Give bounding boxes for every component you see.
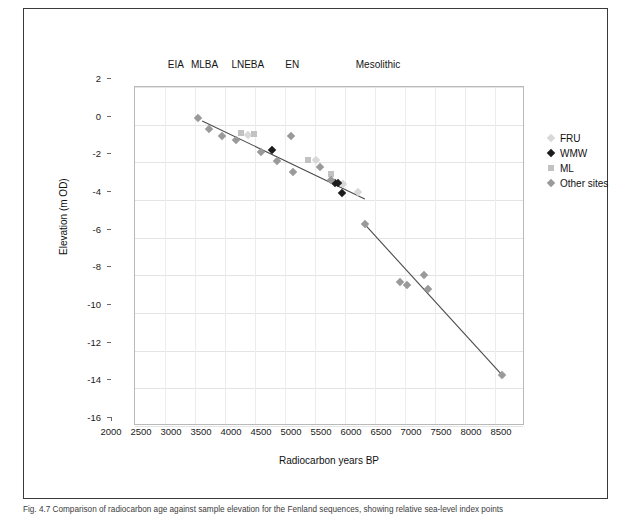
legend-swatch-wrap [542, 150, 560, 156]
y-tick-mark [107, 229, 111, 230]
x-tick-label: 7500 [430, 426, 451, 437]
y-tick-mark [107, 266, 111, 267]
x-tick-label: 8500 [490, 426, 511, 437]
period-label: MLBA [191, 59, 218, 70]
y-tick-mark [107, 191, 111, 192]
x-tick-label: 5500 [310, 426, 331, 437]
legend-item-label: ML [560, 163, 574, 174]
data-point-ml [251, 131, 257, 137]
y-tick-mark [107, 116, 111, 117]
y-tick-label: 0 [96, 110, 101, 121]
square-marker-icon [548, 165, 554, 171]
figure-page: EIAMLBALNEBAENMesolithic 20-2-4-6-8-10-1… [0, 0, 629, 515]
x-tick-label: 6000 [340, 426, 361, 437]
plot-area [134, 86, 524, 425]
legend-item-other-sites[interactable]: Other sites [542, 176, 628, 190]
y-tick-label: -10 [87, 299, 101, 310]
x-tick-label: 7000 [400, 426, 421, 437]
legend-swatch-wrap [542, 135, 560, 141]
y-axis-title: Elevation (m OD) [58, 178, 69, 255]
x-tick-label: 5000 [280, 426, 301, 437]
diamond-marker-icon [547, 179, 555, 187]
legend-item-label: Other sites [560, 178, 608, 189]
y-tick-label: -14 [87, 374, 101, 385]
legend-swatch-wrap [542, 165, 560, 171]
y-tick-label: -12 [87, 336, 101, 347]
y-tick-label: -2 [93, 148, 101, 159]
x-tick-label: 4500 [250, 426, 271, 437]
period-label: EIA [168, 59, 184, 70]
data-point-ml [305, 157, 311, 163]
diamond-marker-icon [547, 134, 555, 142]
x-axis-title: Radiocarbon years BP [134, 455, 524, 466]
trendline [365, 224, 504, 377]
legend: FRUWMWMLOther sites [542, 131, 628, 191]
legend-item-ml[interactable]: ML [542, 161, 628, 175]
y-tick-label: -16 [87, 412, 101, 423]
legend-item-label: FRU [560, 133, 581, 144]
gridline-horizontal [135, 426, 523, 427]
x-tick-label: 6500 [370, 426, 391, 437]
data-point-ml [238, 130, 244, 136]
legend-swatch-wrap [542, 180, 560, 186]
period-label: LNEBA [231, 59, 264, 70]
x-tick-label: 2000 [100, 426, 121, 437]
trendline [202, 121, 365, 199]
y-tick-label: -6 [93, 223, 101, 234]
x-tick-mark [111, 417, 112, 421]
y-tick-mark [107, 78, 111, 79]
y-tick-label: -8 [93, 261, 101, 272]
x-tick-label: 3000 [160, 426, 181, 437]
period-label: EN [285, 59, 299, 70]
y-tick-mark [107, 153, 111, 154]
legend-item-label: WMW [560, 148, 587, 159]
legend-item-wmw[interactable]: WMW [542, 146, 628, 160]
y-tick-mark [107, 379, 111, 380]
y-tick-label: 2 [96, 73, 101, 84]
y-tick-mark [107, 304, 111, 305]
legend-item-fru[interactable]: FRU [542, 131, 628, 145]
trendlines [135, 87, 525, 426]
x-tick-label: 3500 [190, 426, 211, 437]
figure-frame: EIAMLBALNEBAENMesolithic 20-2-4-6-8-10-1… [23, 8, 608, 499]
diamond-marker-icon [547, 149, 555, 157]
x-tick-label: 8000 [460, 426, 481, 437]
y-tick-label: -4 [93, 186, 101, 197]
figure-caption: Fig. 4.7 Comparison of radiocarbon age a… [23, 504, 623, 515]
period-label: Mesolithic [356, 59, 400, 70]
x-tick-label: 2500 [130, 426, 151, 437]
y-tick-mark [107, 342, 111, 343]
x-tick-label: 4000 [220, 426, 241, 437]
